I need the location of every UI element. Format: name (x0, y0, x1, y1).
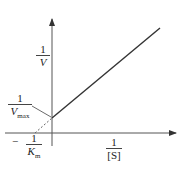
x-axis-label: 1 [S] (106, 137, 122, 161)
vmax-label: 1 Vmax (8, 93, 32, 122)
vmax-leader (32, 106, 51, 117)
y-axis-label: 1 V (36, 44, 50, 68)
km-label: 1 Km (26, 133, 42, 162)
km-sign: − (12, 135, 18, 147)
extrapolation-line (35, 118, 52, 133)
data-line (52, 28, 160, 118)
